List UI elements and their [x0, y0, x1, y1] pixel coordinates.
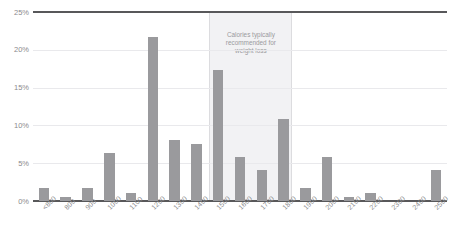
y-axis-tick-label: 15%: [0, 83, 29, 92]
y-axis-tick-label: 10%: [0, 121, 29, 130]
x-axis: <800800900100011001200130014001500160017…: [33, 203, 447, 239]
bar: [257, 170, 268, 201]
bar: [191, 144, 202, 201]
bar-series: [33, 12, 447, 201]
y-axis-tick-label: 20%: [0, 45, 29, 54]
bar: [322, 157, 333, 201]
bar: [104, 153, 115, 201]
bar: [148, 37, 159, 201]
bar: [213, 70, 224, 201]
calorie-distribution-bar-chart: Calories typically recommended for weigh…: [0, 0, 455, 239]
bar: [431, 170, 442, 201]
bar: [278, 119, 289, 201]
bar: [235, 157, 246, 201]
y-axis-tick-label: 0%: [0, 197, 29, 206]
bar: [169, 140, 180, 201]
y-axis-tick-label: 25%: [0, 8, 29, 17]
y-axis-tick-label: 5%: [0, 159, 29, 168]
